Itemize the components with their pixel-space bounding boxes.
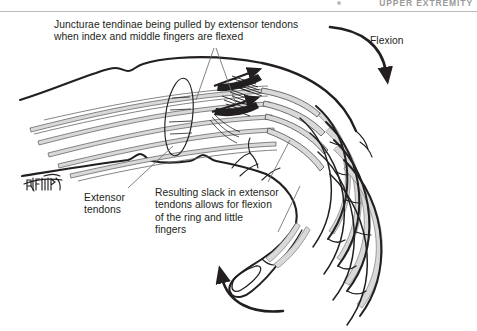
artist-signature [24,175,62,192]
leader-extensor-tendons [128,146,173,188]
caption-resulting-slack: Resulting slack in extensor tendons allo… [155,187,279,237]
caption-flexion: Flexion [370,35,404,47]
hand-anatomy-drawing [0,0,477,331]
figure-root: UPPER EXTREMITY [0,0,477,331]
tendon-strip-3 [48,115,272,157]
extensor-tendons-dorsum [261,88,328,171]
caption-junctura-tendinae: Juncturae tendinae being pulled by exten… [54,19,298,44]
flexion-arrow [330,27,386,72]
tendon-strip-5 [70,142,276,178]
caption-extensor-tendons: Extensor tendons [84,192,125,217]
leader-junctura-a [196,48,214,100]
